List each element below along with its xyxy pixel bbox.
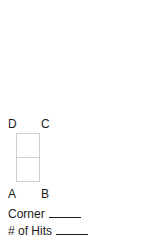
corner-answer-blank[interactable] [49, 207, 81, 218]
corner-label-d: D [8, 118, 17, 130]
corner-label-b: B [41, 188, 49, 200]
corner-label-c: C [41, 118, 50, 130]
corner-field-label: Corner [8, 207, 45, 221]
hits-field-label: # of Hits [8, 224, 52, 238]
hits-answer-blank[interactable] [56, 224, 88, 235]
rectangle-top-cell [16, 133, 40, 158]
hits-field: # of Hits [8, 224, 88, 238]
rectangle-bottom-cell [16, 157, 40, 182]
corner-field: Corner [8, 207, 81, 221]
corner-label-a: A [8, 188, 16, 200]
